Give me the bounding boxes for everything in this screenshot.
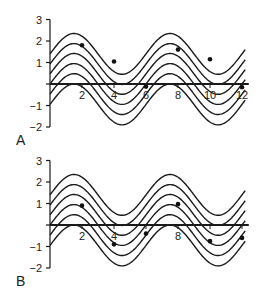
x-tick-label: 8 [175, 89, 181, 101]
data-point [80, 43, 85, 48]
y-tick-label: 2 [36, 35, 42, 47]
data-point [208, 239, 213, 244]
sine-curve [50, 44, 245, 85]
y-tick-label: −2 [29, 262, 42, 274]
y-tick-label: 1 [36, 198, 42, 210]
data-point [112, 242, 117, 247]
figure: 321−1−224681012A321−1−2248B [0, 0, 264, 304]
data-point [112, 59, 117, 64]
x-tick-label: 4 [111, 230, 117, 242]
data-point [240, 85, 245, 90]
y-tick-label: 2 [36, 176, 42, 188]
x-tick-label: 2 [79, 230, 85, 242]
data-point [80, 203, 85, 208]
sine-curve [50, 33, 245, 74]
data-point [144, 84, 149, 89]
panel-label: B [16, 273, 25, 289]
data-point [176, 47, 181, 52]
panel-label: A [16, 132, 26, 148]
data-point [176, 202, 181, 207]
data-point [208, 57, 213, 62]
y-tick-label: −1 [29, 241, 42, 253]
chart-canvas: 321−1−224681012A321−1−2248B [0, 0, 264, 304]
sine-curve [50, 174, 245, 215]
panel-b: 321−1−2248B [16, 155, 249, 290]
x-tick-label: 10 [204, 89, 216, 101]
x-tick-label: 12 [236, 89, 248, 101]
x-tick-label: 6 [143, 89, 149, 101]
data-point [144, 231, 149, 236]
data-point [240, 236, 245, 241]
x-tick-label: 4 [111, 89, 117, 101]
panel-a: 321−1−224681012A [16, 14, 249, 149]
y-tick-label: 1 [36, 57, 42, 69]
x-tick-label: 2 [79, 89, 85, 101]
y-tick-label: −1 [29, 100, 42, 112]
y-tick-label: 3 [36, 14, 42, 26]
x-tick-label: 8 [175, 230, 181, 242]
y-tick-label: −2 [29, 121, 42, 133]
sine-curve [50, 185, 245, 226]
y-tick-label: 3 [36, 155, 42, 167]
